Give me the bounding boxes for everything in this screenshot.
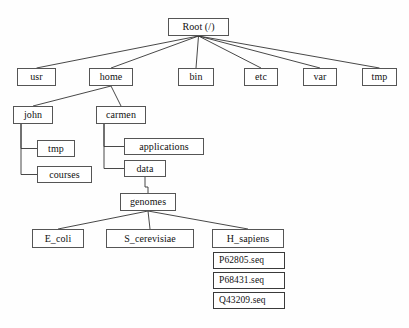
node-label: carmen bbox=[106, 110, 136, 120]
node-label: applications bbox=[139, 142, 189, 152]
directory-node-var[interactable]: var bbox=[303, 68, 337, 86]
node-label: courses bbox=[49, 170, 80, 180]
directory-tree-diagram: Root (/)usrhomebinetcvartmpjohncarmentmp… bbox=[0, 0, 409, 328]
directory-node-etc[interactable]: etc bbox=[244, 68, 278, 86]
tree-edges bbox=[0, 0, 409, 328]
node-label: bin bbox=[189, 72, 202, 82]
node-label: tmp bbox=[48, 144, 64, 154]
file-node-p68431[interactable]: P68431.seq bbox=[213, 272, 285, 289]
directory-node-bin[interactable]: bin bbox=[178, 68, 214, 86]
directory-node-carmen[interactable]: carmen bbox=[96, 106, 146, 124]
node-label: genomes bbox=[130, 197, 166, 207]
directory-node-john_tmp[interactable]: tmp bbox=[37, 140, 75, 157]
node-label: var bbox=[313, 72, 326, 82]
node-label: tmp bbox=[372, 72, 388, 82]
node-label: E_coli bbox=[45, 234, 72, 244]
directory-node-applications[interactable]: applications bbox=[124, 138, 204, 155]
directory-node-home[interactable]: home bbox=[89, 68, 133, 86]
node-label: H_sapiens bbox=[227, 234, 270, 244]
file-node-p62805[interactable]: P62805.seq bbox=[213, 252, 285, 269]
node-label: Q43209.seq bbox=[219, 296, 266, 306]
node-label: usr bbox=[30, 72, 43, 82]
directory-node-data[interactable]: data bbox=[124, 160, 166, 177]
node-label: P62805.seq bbox=[219, 256, 264, 266]
node-label: etc bbox=[255, 72, 267, 82]
directory-node-john[interactable]: john bbox=[13, 106, 53, 124]
node-label: john bbox=[24, 110, 42, 120]
node-label: data bbox=[136, 164, 153, 174]
directory-node-e_coli[interactable]: E_coli bbox=[32, 229, 84, 248]
directory-node-john_courses[interactable]: courses bbox=[37, 166, 92, 183]
directory-node-tmp[interactable]: tmp bbox=[362, 68, 397, 86]
node-label: Root (/) bbox=[182, 22, 214, 32]
node-label: P68431.seq bbox=[219, 276, 264, 286]
directory-node-s_cerevisiae[interactable]: S_cerevisiae bbox=[106, 229, 194, 248]
node-label: home bbox=[100, 72, 123, 82]
node-label: S_cerevisiae bbox=[124, 234, 176, 244]
directory-node-usr[interactable]: usr bbox=[17, 68, 56, 86]
directory-node-genomes[interactable]: genomes bbox=[120, 193, 176, 211]
file-node-q43209[interactable]: Q43209.seq bbox=[213, 292, 285, 309]
directory-node-root[interactable]: Root (/) bbox=[168, 18, 229, 36]
directory-node-h_sapiens[interactable]: H_sapiens bbox=[212, 229, 284, 248]
